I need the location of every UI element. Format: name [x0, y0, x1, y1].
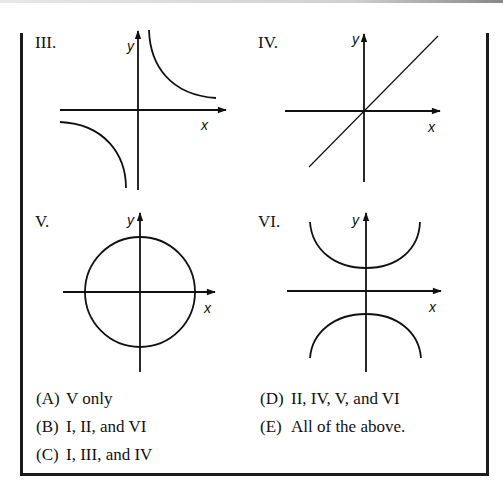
x-axis-label: x: [200, 117, 209, 133]
line-y-equals-x: [309, 36, 438, 167]
graphs-canvas: y x y x y x y x: [0, 0, 503, 487]
y-axis-label: y: [351, 31, 360, 47]
graph-vi: y x: [287, 212, 441, 372]
choice-text: II, IV, V, and VI: [291, 390, 400, 407]
y-axis-label: y: [126, 38, 135, 54]
hyperbola-lower-branch: [60, 122, 126, 188]
choice-letter: (E): [260, 418, 282, 435]
choice-letter: (C): [36, 446, 59, 463]
graph-v: y x: [63, 212, 215, 372]
graph-iii: y x: [60, 30, 226, 190]
choice-letter: (D): [260, 390, 284, 407]
choice-letter: (A): [36, 390, 60, 407]
graph-iv: y x: [285, 31, 440, 182]
x-axis-label: x: [428, 299, 437, 315]
x-axis-label: x: [203, 300, 212, 316]
choice-text: I, II, and VI: [66, 418, 146, 435]
choice-text: V only: [66, 390, 112, 407]
choice-text: I, III, and IV: [66, 446, 152, 463]
choice-letter: (B): [36, 418, 59, 435]
choice-text: All of the above.: [291, 418, 405, 435]
x-axis-label: x: [427, 119, 436, 135]
hyperbola-upper-branch: [149, 30, 216, 98]
y-axis-label: y: [126, 212, 135, 228]
hyperbola-upper-branch: [310, 222, 420, 268]
y-axis-label: y: [351, 212, 360, 228]
